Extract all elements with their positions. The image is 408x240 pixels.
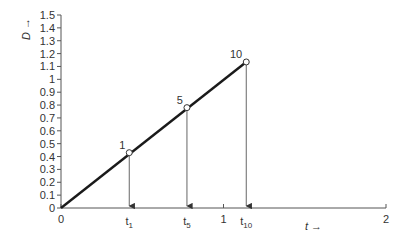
point-marker	[243, 59, 249, 65]
y-tick-label: 1.5	[40, 9, 55, 21]
x-tick-label: 0	[58, 213, 64, 225]
y-tick-label: 0.5	[40, 138, 55, 150]
axes: 00.10.20.30.40.50.60.70.80.911.11.21.31.…	[40, 9, 389, 225]
t-label: t5	[183, 215, 191, 230]
y-tick-label: 0.2	[40, 176, 55, 188]
y-tick-label: 0.9	[40, 86, 55, 98]
y-tick-label: 0.3	[40, 163, 55, 175]
point-marker	[126, 150, 132, 156]
y-tick-label: 0.7	[40, 112, 55, 124]
y-tick-label: 1.3	[40, 35, 55, 47]
t-label: t1	[125, 215, 133, 230]
x-axis-label: t →	[305, 220, 322, 232]
x-tick-label: 2	[383, 213, 389, 225]
point-label: 5	[177, 94, 183, 106]
point-marker	[184, 105, 190, 111]
y-tick-label: 0	[49, 202, 55, 214]
y-tick-label: 0.1	[40, 189, 55, 201]
y-tick-label: 1	[49, 73, 55, 85]
t-label: t10	[240, 215, 253, 230]
series	[61, 62, 246, 208]
point-label: 1	[119, 139, 125, 151]
point-label: 10	[230, 48, 242, 60]
marked-points: 1t15t510t10	[119, 48, 253, 230]
plot-area: 00.10.20.30.40.50.60.70.80.911.11.21.31.…	[0, 0, 408, 240]
y-axis-label: D →	[20, 18, 32, 40]
y-tick-label: 1.1	[40, 60, 55, 72]
series-line	[61, 62, 246, 208]
chart: 00.10.20.30.40.50.60.70.80.911.11.21.31.…	[0, 0, 408, 240]
x-tick-label: 1	[220, 213, 226, 225]
y-tick-label: 0.8	[40, 99, 55, 111]
y-tick-label: 0.6	[40, 125, 55, 137]
y-tick-label: 0.4	[40, 151, 55, 163]
drop-lines	[129, 65, 246, 206]
y-tick-label: 1.4	[40, 22, 55, 34]
y-tick-label: 1.2	[40, 48, 55, 60]
